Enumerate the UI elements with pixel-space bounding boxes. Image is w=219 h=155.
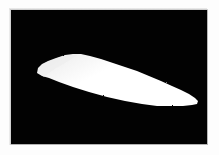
mask-svg-canvas <box>11 10 207 144</box>
screenshot-root <box>0 0 219 155</box>
segmentation-mask-figure <box>11 10 207 144</box>
